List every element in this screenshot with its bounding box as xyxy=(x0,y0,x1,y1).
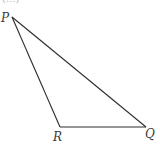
edge-pq xyxy=(12,17,146,127)
vertex-label-r: R xyxy=(52,130,62,144)
vertex-label-p: P xyxy=(0,11,10,25)
vertex-label-q: Q xyxy=(145,127,155,141)
edge-pr xyxy=(12,17,60,127)
triangle-diagram: (...) P R Q xyxy=(0,0,160,148)
cropped-text-fragment: (...) xyxy=(2,0,19,4)
